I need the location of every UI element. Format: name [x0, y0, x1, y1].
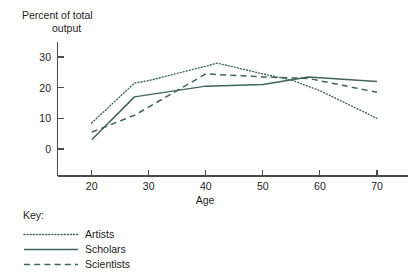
- line-chart-svg: Percent of total output 30 20 10 0 20: [0, 0, 417, 278]
- y-axis-title-line1: Percent of total: [22, 9, 93, 21]
- series-line-scholars: [92, 77, 377, 140]
- x-tick-label-30: 30: [143, 180, 155, 192]
- x-tick-label-60: 60: [314, 180, 326, 192]
- legend-label-scientists: Scientists: [85, 258, 130, 270]
- legend-label-artists: Artists: [85, 228, 114, 240]
- x-tick-label-20: 20: [86, 180, 98, 192]
- series-line-artists: [92, 63, 377, 123]
- x-tick-label-50: 50: [257, 180, 269, 192]
- y-tick-label-20: 20: [39, 82, 51, 94]
- x-axis-title: Age: [196, 194, 215, 206]
- y-tick-label-30: 30: [39, 51, 51, 63]
- series-group: [92, 63, 377, 140]
- y-tick-group: [58, 57, 65, 149]
- y-axis-title-line2: output: [52, 22, 81, 34]
- y-tick-label-10: 10: [39, 112, 51, 124]
- chart-figure: Percent of total output 30 20 10 0 20: [0, 0, 417, 278]
- x-tick-label-40: 40: [200, 180, 212, 192]
- legend-label-scholars: Scholars: [85, 243, 126, 255]
- legend: Key: Artists Scholars Scientists: [23, 209, 130, 270]
- legend-title: Key:: [23, 209, 44, 221]
- y-tick-label-0: 0: [45, 143, 51, 155]
- x-tick-label-70: 70: [371, 180, 383, 192]
- x-tick-group: [92, 170, 377, 177]
